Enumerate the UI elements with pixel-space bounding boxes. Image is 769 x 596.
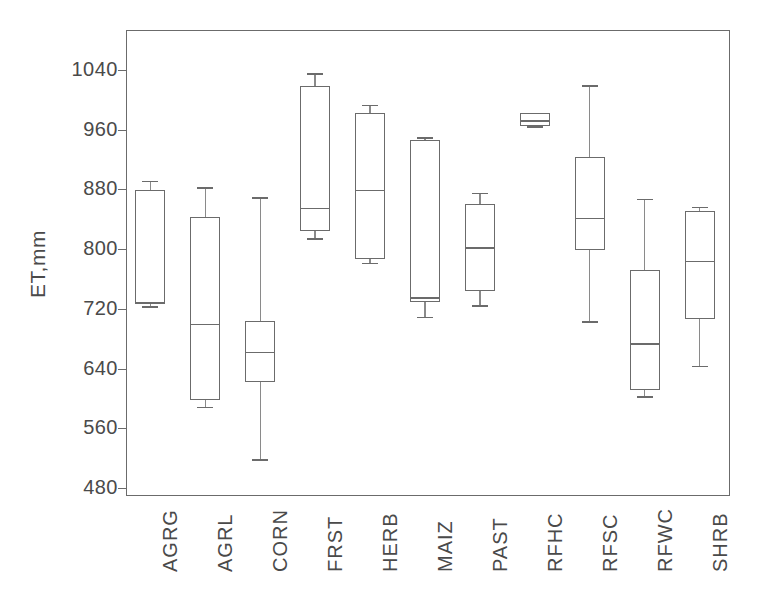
- median-line: [630, 343, 660, 344]
- whisker-cap-lower: [307, 238, 323, 240]
- whisker-lower: [205, 400, 206, 407]
- whisker-cap-lower: [417, 317, 433, 319]
- box-plot-figure: ET,mm 4805606407208008809601040 AGRGAGRL…: [0, 0, 769, 596]
- median-line: [190, 324, 220, 325]
- median-line: [465, 247, 495, 248]
- median-line: [685, 261, 715, 262]
- whisker-cap-upper: [417, 137, 433, 139]
- whisker-cap-lower: [362, 263, 378, 265]
- y-tick-label: 720: [48, 298, 118, 318]
- whisker-cap-lower: [142, 306, 158, 308]
- whisker-cap-upper: [142, 181, 158, 183]
- box-iqr: [355, 113, 385, 259]
- whisker-cap-upper: [582, 85, 598, 87]
- plot-area: [126, 30, 730, 496]
- box-iqr: [410, 140, 440, 302]
- median-line: [410, 297, 440, 298]
- whisker-cap-upper: [362, 105, 378, 107]
- x-tick-label-herb: HERB: [379, 512, 402, 572]
- y-tick-label: 480: [48, 477, 118, 497]
- whisker-upper: [314, 73, 315, 86]
- whisker-cap-upper: [252, 197, 268, 199]
- median-line: [355, 190, 385, 191]
- y-tick-label: 880: [48, 178, 118, 198]
- whisker-cap-lower: [252, 459, 268, 461]
- whisker-cap-upper: [307, 73, 323, 75]
- whisker-lower: [699, 319, 700, 366]
- whisker-cap-upper: [472, 193, 488, 195]
- y-axis-title: ET,mm: [26, 204, 50, 324]
- x-tick-label-shrb: SHRB: [709, 512, 732, 572]
- whisker-lower: [260, 382, 261, 459]
- x-tick-label-rfsc: RFSC: [599, 514, 622, 572]
- whisker-upper: [260, 197, 261, 321]
- box-iqr: [135, 190, 165, 303]
- x-tick-label-maiz: MAIZ: [434, 520, 457, 572]
- whisker-upper: [479, 193, 480, 204]
- x-tick-label-rfhc: RFHC: [544, 512, 567, 572]
- box-iqr: [630, 270, 660, 390]
- y-tick-label: 800: [48, 238, 118, 258]
- whisker-upper: [205, 187, 206, 216]
- x-tick-label-rfwc: RFWC: [654, 508, 677, 572]
- whisker-upper: [644, 199, 645, 271]
- whisker-lower: [589, 250, 590, 321]
- whisker-cap-upper: [197, 187, 213, 189]
- whisker-cap-lower: [637, 396, 653, 398]
- median-line: [245, 352, 275, 353]
- median-line: [300, 208, 330, 209]
- median-line: [135, 302, 165, 303]
- whisker-cap-lower: [582, 321, 598, 323]
- box-iqr: [685, 211, 715, 319]
- y-tick-label: 560: [48, 417, 118, 437]
- y-tick-label: 960: [48, 119, 118, 139]
- whisker-upper: [589, 85, 590, 157]
- box-iqr: [300, 86, 330, 231]
- x-tick-label-agrl: AGRL: [214, 514, 237, 572]
- median-line: [520, 120, 550, 121]
- whisker-cap-upper: [637, 199, 653, 201]
- whisker-lower: [479, 291, 480, 305]
- x-tick-label-frst: FRST: [324, 516, 347, 572]
- x-tick-label-agrg: AGRG: [159, 509, 182, 572]
- whisker-cap-upper: [692, 207, 708, 209]
- y-tick-label: 1040: [48, 59, 118, 79]
- y-tick-label: 640: [48, 358, 118, 378]
- whisker-cap-lower: [527, 126, 543, 128]
- whisker-cap-lower: [692, 366, 708, 368]
- x-tick-label-past: PAST: [489, 517, 512, 572]
- median-line: [575, 218, 605, 219]
- box-iqr: [190, 217, 220, 401]
- whisker-lower: [314, 231, 315, 238]
- box-iqr: [575, 157, 605, 250]
- whisker-lower: [424, 302, 425, 316]
- whisker-cap-lower: [472, 305, 488, 307]
- whisker-cap-lower: [197, 407, 213, 409]
- x-tick-label-corn: CORN: [269, 509, 292, 572]
